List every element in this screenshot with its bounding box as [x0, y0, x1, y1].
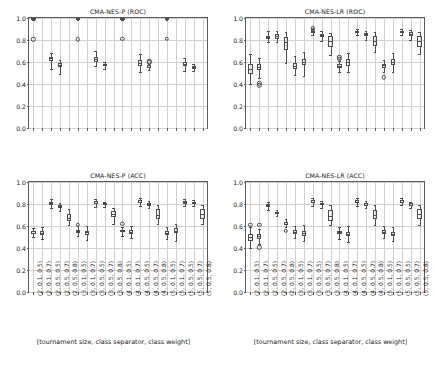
boxplot-cap [392, 227, 395, 228]
y-tick-mark [244, 270, 247, 271]
boxplot-cap [294, 56, 297, 57]
gridline-vertical [348, 18, 349, 128]
x-tick-mark [420, 128, 421, 131]
boxplot-cap [50, 53, 53, 54]
boxplot-cap [201, 224, 204, 225]
boxplot-median [373, 41, 377, 42]
boxplot-outlier [382, 75, 386, 79]
boxplot-cap [249, 84, 252, 85]
boxplot-cap [320, 31, 323, 32]
gridline-vertical [114, 182, 115, 292]
y-tick-label: 0.0 [16, 125, 26, 132]
boxplot-cap [347, 242, 350, 243]
boxplot-cap [303, 76, 306, 77]
x-tick-mark [42, 128, 43, 131]
gridline-vertical [194, 182, 195, 292]
y-tick-label: 0.0 [233, 125, 243, 132]
x-tick-mark [393, 292, 394, 295]
gridline-vertical [87, 18, 88, 128]
boxplot-cap [418, 32, 421, 33]
y-tick-mark [244, 84, 247, 85]
boxplot-cap [258, 78, 261, 79]
gridline-vertical [411, 182, 412, 292]
boxplot-cap [338, 227, 341, 228]
boxplot-cap [303, 52, 306, 53]
gridline-horizontal [29, 84, 207, 85]
boxplot-cap [294, 75, 297, 76]
x-tick-mark [259, 292, 260, 295]
y-tick-label: 0.8 [233, 37, 243, 44]
xaxis-title: [tournament size, class separator, class… [227, 338, 434, 346]
boxplot-cap [166, 227, 169, 228]
gridline-vertical [158, 182, 159, 292]
gridline-horizontal [246, 182, 424, 183]
boxplot-cap [303, 241, 306, 242]
y-tick-label: 0.6 [233, 59, 243, 66]
gridline-vertical [167, 18, 168, 128]
boxplot-cap [32, 228, 35, 229]
boxplot-median [302, 62, 306, 63]
gridline-vertical [149, 18, 150, 128]
y-tick-mark [27, 128, 30, 129]
figure-canvas: CMA-NES-P (ROC) 0.00.20.40.60.81.0 CMA-N… [0, 0, 434, 365]
boxplot-cap [249, 248, 252, 249]
y-tick-label: 0.0 [233, 289, 243, 296]
boxplot-cap [148, 70, 151, 71]
x-tick-mark [339, 128, 340, 131]
x-tick-mark [357, 128, 358, 131]
boxplot-median [391, 62, 395, 63]
boxplot-cap [50, 69, 53, 70]
boxplot-cap [249, 54, 252, 55]
y-tick-label: 0.8 [16, 37, 26, 44]
boxplot-median [417, 214, 421, 215]
boxplot-cap [320, 41, 323, 42]
x-tick-mark [122, 292, 123, 295]
boxplot-cap [192, 206, 195, 207]
gridline-vertical [331, 182, 332, 292]
boxplot-cap [59, 74, 62, 75]
x-tick-mark [268, 292, 269, 295]
panel-bottom-right: CMA-NES-LR (ACC) 0.00.20.40.60.81.0(2, 0… [217, 172, 434, 365]
y-tick-label: 0.4 [16, 245, 26, 252]
boxplot-median [364, 34, 368, 35]
boxplot-median [417, 41, 421, 42]
boxplot-cap [148, 208, 151, 209]
x-tick-mark [51, 128, 52, 131]
y-tick-label: 0.4 [233, 81, 243, 88]
gridline-vertical [185, 18, 186, 128]
gridline-vertical [96, 18, 97, 128]
boxplot-whisker [250, 74, 251, 84]
y-tick-label: 0.2 [233, 103, 243, 110]
boxplot-cap [338, 61, 341, 62]
boxplot-median [391, 234, 395, 235]
boxplot-cap [139, 206, 142, 207]
y-tick-label: 1.0 [16, 179, 26, 186]
x-tick-mark [194, 292, 195, 295]
gridline-horizontal [29, 40, 207, 41]
y-tick-mark [27, 204, 30, 205]
boxplot-cap [383, 238, 386, 239]
boxplot-cap [103, 62, 106, 63]
x-tick-mark [185, 128, 186, 131]
x-tick-mark [411, 128, 412, 131]
y-tick-label: 0.6 [233, 223, 243, 230]
boxplot-cap [121, 227, 124, 228]
boxplot-cap [32, 237, 35, 238]
boxplot-median [257, 236, 261, 237]
boxplot-median [382, 232, 386, 233]
y-tick-label: 0.2 [16, 267, 26, 274]
boxplot-median [174, 231, 178, 232]
x-tick-mark [411, 292, 412, 295]
x-tick-mark [60, 128, 61, 131]
boxplot-cap [374, 52, 377, 53]
boxplot-median [94, 59, 98, 60]
gridline-vertical [203, 182, 204, 292]
boxplot-cap [183, 199, 186, 200]
y-tick-mark [27, 18, 30, 19]
boxplot-cap [166, 239, 169, 240]
x-tick-mark [42, 292, 43, 295]
x-tick-mark [69, 128, 70, 131]
gridline-vertical [277, 182, 278, 292]
x-tick-mark [322, 292, 323, 295]
gridline-vertical [105, 182, 106, 292]
